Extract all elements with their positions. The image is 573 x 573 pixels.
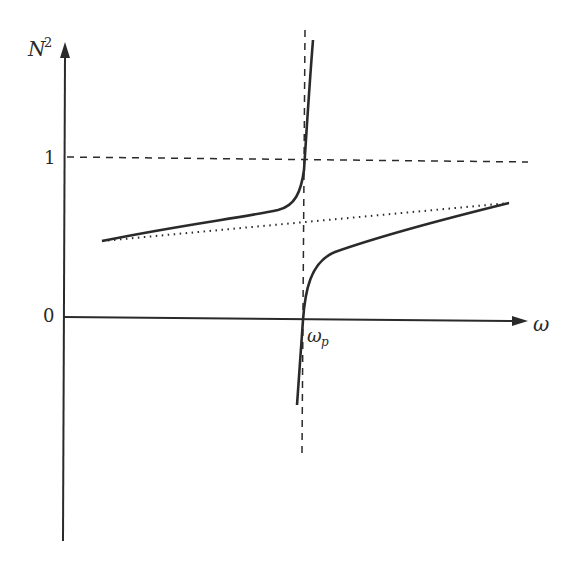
x-axis-label: ω	[533, 312, 549, 336]
left-branch-curve	[102, 40, 313, 241]
tick-label-zero: 0	[43, 305, 54, 326]
omega-p-label: ω	[307, 325, 322, 346]
omega-p-subscript: p	[321, 335, 329, 349]
right-branch-curve	[297, 203, 509, 405]
y-axis-arrow-icon	[60, 42, 70, 58]
x-axis	[64, 316, 528, 326]
tick-label-one: 1	[44, 147, 55, 168]
n2-equals-one-asymptote	[67, 157, 528, 162]
x-axis-arrow-icon	[512, 316, 528, 326]
y-axis	[60, 42, 70, 541]
y-axis-label-exponent: 2	[44, 35, 52, 50]
dotted-line	[102, 203, 509, 241]
omega-p-asymptote	[302, 30, 305, 453]
dispersion-diagram: N 2 1 0 ω ω p	[0, 0, 573, 573]
